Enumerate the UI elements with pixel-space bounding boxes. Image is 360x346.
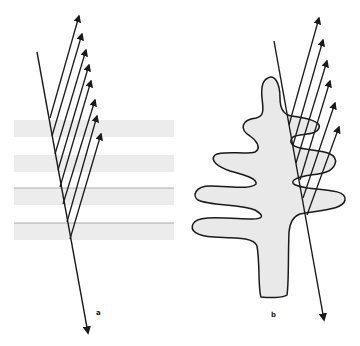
figure-canvas <box>0 0 360 346</box>
layer-3 <box>14 188 174 205</box>
panel-a-label: a <box>96 309 101 317</box>
panel-b-label: b <box>271 311 276 319</box>
lobed-structure <box>192 77 345 298</box>
panel-a <box>14 16 174 333</box>
layer-4 <box>14 223 174 240</box>
panel-b <box>192 18 345 320</box>
layer-stack <box>14 120 174 240</box>
